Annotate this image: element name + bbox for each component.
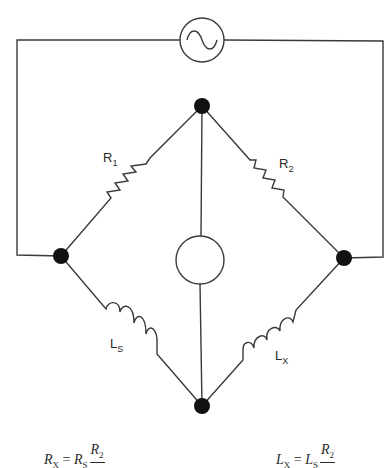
resistor-r1-icon	[61, 106, 202, 256]
formula-lx-num-sub: 2	[330, 450, 335, 460]
formula-rx-rhs: R	[74, 452, 83, 467]
bridge-circuit	[0, 0, 389, 468]
ac-source-icon	[180, 18, 224, 62]
label-r2-name: R	[279, 156, 288, 171]
formula-rx: RX = RSR2	[44, 451, 105, 468]
label-r1: R1	[103, 150, 117, 168]
label-r2: R2	[279, 156, 293, 174]
node-top	[194, 98, 210, 114]
label-ls: LS	[110, 336, 123, 354]
detector-wire-bottom	[200, 284, 202, 406]
formula-rx-fraction: R2	[90, 443, 105, 463]
formula-lx-lhs: L	[276, 452, 284, 467]
resistor-r2-icon	[202, 106, 344, 258]
formula-rx-eq: =	[59, 452, 74, 467]
formula-lx-eq: =	[290, 452, 305, 467]
inductor-lx-icon	[202, 258, 344, 406]
formula-rx-lhs: R	[44, 452, 53, 467]
node-right	[336, 250, 352, 266]
formula-rx-num-sub: 2	[99, 450, 104, 460]
formula-lx: LX = LSR2	[276, 451, 335, 468]
label-ls-sub: S	[117, 344, 123, 354]
label-r2-sub: 2	[288, 164, 293, 174]
top-wire-right	[224, 40, 383, 258]
formula-lx-rhs-sub: S	[313, 460, 318, 468]
label-lx-sub: X	[282, 356, 288, 366]
formula-rx-num: R	[91, 442, 100, 457]
label-r1-name: R	[103, 150, 112, 165]
formula-lx-fraction: R2	[320, 443, 335, 463]
formula-lx-numerator: R2	[320, 443, 335, 463]
top-wire-left	[17, 40, 180, 256]
formula-rx-numerator: R2	[90, 443, 105, 463]
formula-lx-num: R	[321, 442, 330, 457]
node-bottom	[194, 398, 210, 414]
label-lx: LX	[275, 348, 288, 366]
node-left	[53, 248, 69, 264]
inductor-ls-icon	[61, 256, 202, 406]
label-r1-sub: 1	[112, 158, 117, 168]
detector-wire-top	[201, 106, 202, 236]
formula-rx-rhs-sub: S	[83, 460, 88, 468]
detector-icon	[176, 236, 224, 284]
formula-lx-rhs: L	[305, 452, 313, 467]
